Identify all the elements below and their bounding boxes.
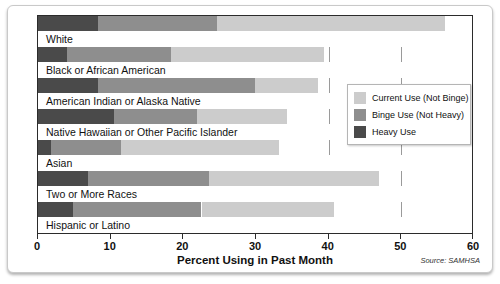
legend-item: Heavy Use [354, 124, 464, 139]
x-axis-tick-labels: 0102030405060 [37, 239, 473, 253]
category-label-band: Asian [38, 155, 472, 171]
chart-category-row: Hispanic or Latino [38, 202, 472, 233]
axis-tick-label: 30 [249, 239, 261, 253]
axis-tick-label: 40 [322, 239, 334, 253]
bar-segment-binge-use [114, 109, 198, 124]
category-label-band: White [38, 31, 472, 47]
stacked-bar [38, 171, 472, 186]
bar-segment-heavy-use [38, 202, 73, 217]
legend-swatch [354, 109, 366, 121]
chart-legend: Current Use (Not Binge)Binge Use (Not He… [347, 84, 471, 145]
category-label-band: Hispanic or Latino [38, 217, 472, 233]
x-axis-title: Percent Using in Past Month [37, 254, 473, 266]
axis-tick-label: 20 [176, 239, 188, 253]
legend-label: Binge Use (Not Heavy) [372, 110, 464, 120]
axis-tick-label: 50 [394, 239, 406, 253]
bar-segment-binge-use [98, 78, 254, 93]
bar-segment-current-use [197, 109, 287, 124]
category-label: Two or More Races [46, 186, 137, 202]
category-label-band: Two or More Races [38, 186, 472, 202]
bar-segment-current-use [255, 78, 318, 93]
category-label: Asian [46, 155, 72, 171]
chart-category-row: Two or More Races [38, 171, 472, 202]
bar-segment-current-use [202, 202, 334, 217]
category-label: White [46, 31, 73, 47]
bar-segment-heavy-use [38, 171, 88, 186]
stacked-bar [38, 16, 472, 31]
bar-segment-heavy-use [38, 78, 98, 93]
source-note: Source: SAMHSA [420, 256, 480, 265]
legend-label: Heavy Use [372, 127, 416, 137]
legend-swatch [354, 92, 366, 104]
legend-item: Current Use (Not Binge) [354, 90, 464, 105]
bar-segment-binge-use [88, 171, 209, 186]
bar-segment-binge-use [98, 16, 216, 31]
figure-card: WhiteBlack or African AmericanAmerican I… [7, 5, 493, 273]
bar-segment-heavy-use [38, 47, 67, 62]
category-label: Black or African American [46, 62, 166, 78]
bar-segment-current-use [171, 47, 324, 62]
legend-label: Current Use (Not Binge) [372, 93, 469, 103]
category-label-band: Black or African American [38, 62, 472, 78]
bar-segment-current-use [121, 140, 279, 155]
bar-segment-binge-use [67, 47, 171, 62]
category-label: Native Hawaiian or Other Pacific Islande… [46, 124, 237, 140]
bar-segment-heavy-use [38, 140, 51, 155]
axis-tick-label: 0 [34, 239, 40, 253]
axis-tick-label: 10 [104, 239, 116, 253]
legend-item: Binge Use (Not Heavy) [354, 107, 464, 122]
bar-segment-current-use [209, 171, 378, 186]
chart-category-row: Black or African American [38, 47, 472, 78]
chart-category-row: White [38, 16, 472, 47]
bar-segment-binge-use [51, 140, 121, 155]
axis-tick-label: 60 [467, 239, 479, 253]
category-label: Hispanic or Latino [46, 217, 130, 233]
legend-swatch [354, 126, 366, 138]
bar-segment-heavy-use [38, 109, 114, 124]
stacked-bar [38, 202, 472, 217]
stacked-bar [38, 47, 472, 62]
bar-segment-heavy-use [38, 16, 98, 31]
bar-segment-current-use [217, 16, 445, 31]
bar-segment-binge-use [73, 202, 202, 217]
category-label: American Indian or Alaska Native [46, 93, 201, 109]
